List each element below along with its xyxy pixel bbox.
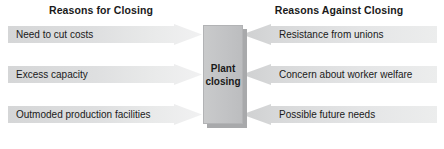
- right-arrow-label-1: Resistance from unions: [279, 24, 384, 45]
- center-box: Plant closing: [203, 25, 243, 124]
- left-arrow-row-3: Outmoded production facilities: [8, 104, 202, 125]
- right-arrow-row-1: Resistance from unions: [242, 24, 437, 45]
- left-column-heading: Reasons for Closing: [0, 4, 202, 16]
- right-arrow-label-3: Possible future needs: [279, 104, 375, 125]
- center-box-label: Plant closing: [205, 62, 240, 88]
- plant-closing-diagram: Reasons for Closing Reasons Against Clos…: [0, 0, 444, 149]
- left-arrow-row-2: Excess capacity: [8, 64, 202, 85]
- left-arrow-label-3: Outmoded production facilities: [16, 104, 151, 125]
- right-arrow-row-2: Concern about worker welfare: [242, 64, 437, 85]
- left-arrow-row-1: Need to cut costs: [8, 24, 202, 45]
- right-column-heading: Reasons Against Closing: [234, 4, 444, 16]
- center-box-container: Plant closing: [203, 25, 247, 125]
- right-arrow-label-2: Concern about worker welfare: [279, 64, 412, 85]
- right-arrow-row-3: Possible future needs: [242, 104, 437, 125]
- left-arrow-label-2: Excess capacity: [16, 64, 88, 85]
- left-arrow-label-1: Need to cut costs: [16, 24, 93, 45]
